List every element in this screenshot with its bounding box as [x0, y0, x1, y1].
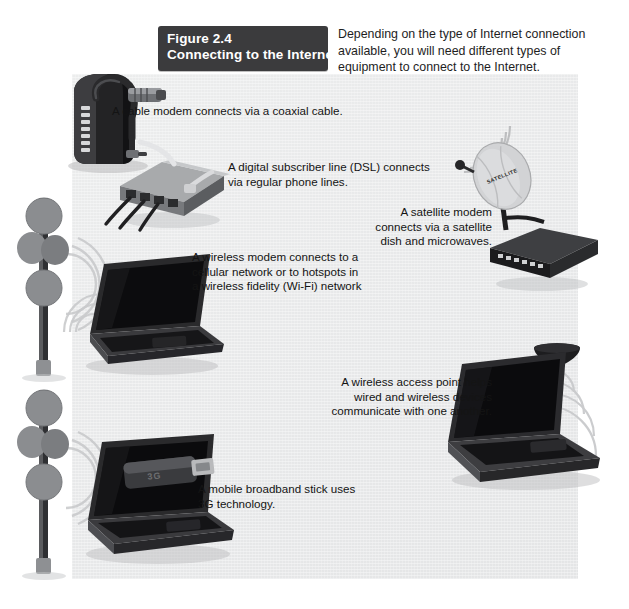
satellite-modem-illustration: [484, 218, 604, 298]
figure-number: Figure 2.4: [167, 31, 319, 47]
caption-access-point: A wireless access point helps wired and …: [322, 375, 492, 419]
figure-intro-text: Depending on the type of Internet connec…: [338, 26, 610, 76]
caption-cable-modem: A cable modem connects via a coaxial cab…: [112, 104, 372, 119]
caption-broadband-stick: A mobile broadband stick uses 3G technol…: [198, 482, 368, 511]
caption-dsl-modem: A digital subscriber line (DSL) connects…: [228, 160, 438, 189]
panel-bottom-margin: [0, 579, 629, 609]
figure-canvas: SATELLITE: [0, 0, 629, 609]
dsl-modem-illustration: [100, 140, 240, 235]
caption-wireless-modem: A wireless modem connects to a cellular …: [192, 250, 364, 294]
figure-title: Connecting to the Internet: [167, 47, 319, 63]
coax-connector: [128, 88, 166, 102]
panel-right-margin: [578, 0, 629, 609]
caption-satellite-modem: A satellite modem connects via a satelli…: [370, 205, 492, 249]
usb-stick-label: 3G: [147, 470, 162, 481]
figure-title-block: Figure 2.4 Connecting to the Internet: [158, 26, 328, 71]
access-point-laptop-illustration: [434, 346, 614, 496]
